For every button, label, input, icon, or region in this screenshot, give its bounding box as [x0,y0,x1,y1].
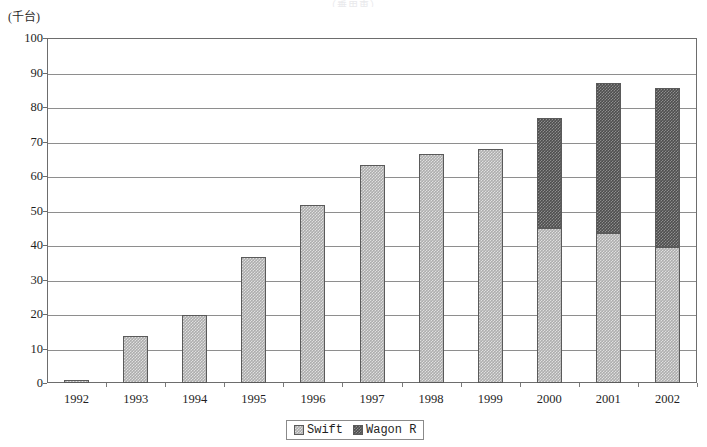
bar-group[interactable] [596,38,621,383]
x-tick-mark [638,383,639,387]
bar-segment-wagon-r[interactable] [596,83,621,233]
bar-group[interactable] [241,38,266,383]
y-tick-mark [43,383,47,384]
y-tick-label: 40 [3,239,43,251]
x-tick-mark [283,383,284,387]
bar-segment-swift[interactable] [478,149,503,383]
x-tick-mark [579,383,580,387]
bar-segment-swift[interactable] [123,336,148,383]
y-tick-label: 50 [3,205,43,217]
legend-label-wagon-r: Wagon R [366,424,416,436]
y-tick-label: 10 [3,343,43,355]
bars-layer [47,38,697,383]
stacked-bar-chart: （乗用車） (千台) 0102030405060708090100 199219… [0,0,707,447]
y-tick-label: 90 [3,67,43,79]
x-tick-mark [224,383,225,387]
x-tick-mark [697,383,698,387]
bar-segment-swift[interactable] [64,380,89,383]
bar-segment-swift[interactable] [419,154,444,383]
bar-segment-swift[interactable] [537,228,562,383]
y-tick-label: 80 [3,101,43,113]
x-tick-mark [520,383,521,387]
bar-group[interactable] [419,38,444,383]
legend-label-swift: Swift [307,424,343,436]
y-tick-label: 0 [3,377,43,389]
bar-segment-swift[interactable] [300,205,325,383]
y-tick-label: 70 [3,136,43,148]
chart-legend: Swift Wagon R [286,420,424,440]
bar-segment-swift[interactable] [241,257,266,383]
bar-group[interactable] [123,38,148,383]
bar-group[interactable] [182,38,207,383]
y-tick-label: 30 [3,274,43,286]
bar-group[interactable] [300,38,325,383]
bar-segment-swift[interactable] [360,165,385,383]
bar-group[interactable] [360,38,385,383]
bar-segment-swift[interactable] [596,233,621,383]
bar-group[interactable] [537,38,562,383]
y-tick-label: 60 [3,170,43,182]
x-tick-mark [342,383,343,387]
chart-title-clipped: （乗用車） [0,0,707,7]
bar-group[interactable] [64,38,89,383]
legend-item-wagon-r: Wagon R [353,424,416,436]
x-tick-mark [461,383,462,387]
bar-segment-wagon-r[interactable] [537,118,562,228]
bar-segment-swift[interactable] [655,247,680,383]
y-axis-unit-label: (千台) [8,10,40,24]
x-tick-mark [106,383,107,387]
x-tick-mark [165,383,166,387]
bar-segment-wagon-r[interactable] [655,88,680,248]
bar-segment-swift[interactable] [182,315,207,383]
x-tick-mark [402,383,403,387]
y-tick-label: 100 [3,32,43,44]
y-axis-ticks: 0102030405060708090100 [0,38,43,383]
legend-swatch-swift-icon [294,425,304,435]
legend-item-swift: Swift [294,424,343,436]
bar-group[interactable] [655,38,680,383]
legend-swatch-wagon-r-icon [353,425,363,435]
x-tick-label: 2002 [632,392,702,406]
bar-group[interactable] [478,38,503,383]
y-tick-label: 20 [3,308,43,320]
